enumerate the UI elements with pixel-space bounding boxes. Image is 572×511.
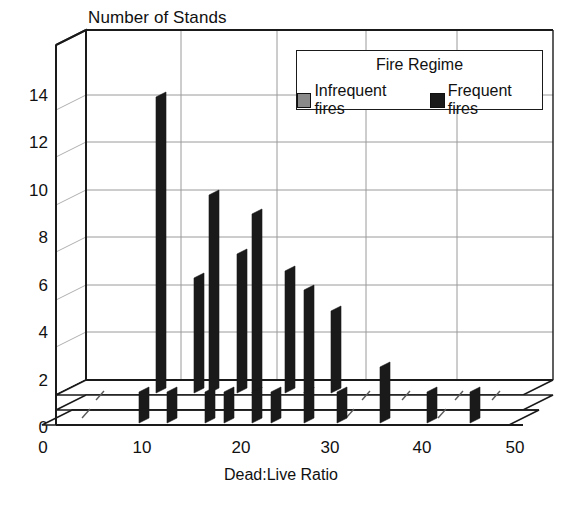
bar-frequent-1 (156, 92, 166, 393)
bar-infrequent-2 (167, 387, 177, 423)
bar-infrequent-9 (380, 362, 390, 423)
bar-infrequent-1 (139, 387, 149, 423)
chart-figure: Number of Stands Dead:Live Ratio 14 12 1… (0, 0, 572, 511)
bar-frequent-4 (237, 249, 247, 393)
legend-items: Infrequent fires Frequent fires (297, 82, 542, 118)
legend: Fire Regime Infrequent fires Frequent fi… (296, 50, 543, 110)
bar-infrequent-10 (427, 387, 437, 423)
bar-frequent-3 (209, 190, 219, 393)
bar-frequent-7 (304, 285, 314, 393)
chart-floor-base (42, 410, 539, 425)
legend-entry-infrequent[interactable]: Infrequent fires (297, 82, 416, 118)
legend-swatch-infrequent-icon (297, 93, 311, 108)
bar-infrequent-6 (271, 387, 281, 423)
bar-frequent-8 (331, 306, 341, 393)
legend-title: Fire Regime (297, 56, 542, 74)
bar-infrequent-4 (224, 387, 234, 423)
bar-infrequent-3 (205, 387, 215, 423)
legend-entry-frequent[interactable]: Frequent fires (430, 82, 542, 118)
bar-frequent-6 (285, 266, 295, 393)
bar-infrequent-7 (304, 387, 314, 423)
bar-infrequent-8 (337, 387, 347, 423)
legend-label-infrequent: Infrequent fires (314, 82, 416, 118)
left-wall (56, 30, 86, 395)
bar-infrequent-11 (470, 387, 480, 423)
legend-swatch-frequent-icon (430, 93, 444, 108)
bar-frequent-2 (194, 273, 204, 393)
bar-frequent-5 (252, 209, 262, 393)
bar-infrequent-5 (252, 387, 262, 423)
legend-label-frequent: Frequent fires (448, 82, 542, 118)
